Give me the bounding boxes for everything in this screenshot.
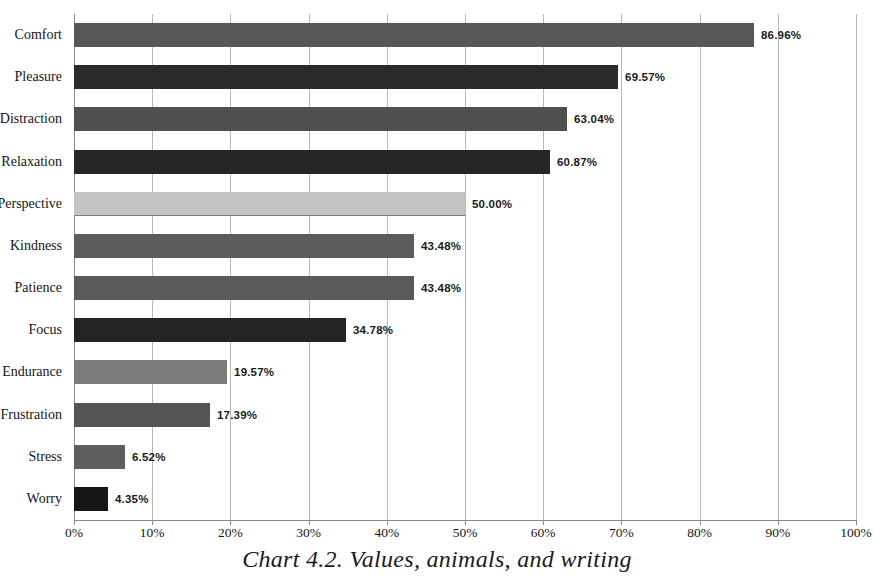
y-axis-category-labels: ComfortPleasureDistractionRelaxationPers… <box>0 14 68 520</box>
bars-layer: 86.96%69.57%63.04%60.87%50.00%43.48%43.4… <box>74 14 856 520</box>
bar-value-label: 4.35% <box>115 493 149 505</box>
bar-value-label: 86.96% <box>761 29 801 41</box>
category-label-distraction: Distraction <box>0 111 62 127</box>
bar-row[interactable]: 60.87% <box>74 141 856 183</box>
bar[interactable] <box>74 276 414 300</box>
bar-row[interactable]: 63.04% <box>74 98 856 140</box>
bar-value-label: 43.48% <box>421 240 461 252</box>
bar[interactable] <box>74 318 346 342</box>
bar-row[interactable]: 17.39% <box>74 394 856 436</box>
category-label-patience: Patience <box>15 280 62 296</box>
x-tick-label-100%: 100% <box>840 525 872 541</box>
bar[interactable] <box>74 487 108 511</box>
category-label-worry: Worry <box>27 491 62 507</box>
bar[interactable] <box>74 23 754 47</box>
chart-page: ComfortPleasureDistractionRelaxationPers… <box>0 0 874 576</box>
bar-value-label: 6.52% <box>132 451 166 463</box>
bar-row[interactable]: 43.48% <box>74 225 856 267</box>
x-tick-label-60%: 60% <box>531 525 556 541</box>
bar[interactable] <box>74 65 618 89</box>
category-label-perspective: Perspective <box>0 196 62 212</box>
bar-value-label: 17.39% <box>217 409 257 421</box>
x-tick-label-20%: 20% <box>218 525 243 541</box>
bar-value-label: 43.48% <box>421 282 461 294</box>
category-label-pleasure: Pleasure <box>15 69 62 85</box>
category-label-kindness: Kindness <box>10 238 62 254</box>
x-tick-label-50%: 50% <box>453 525 478 541</box>
horizontal-bar-chart: ComfortPleasureDistractionRelaxationPers… <box>0 0 874 576</box>
bar[interactable] <box>74 234 414 258</box>
x-tick-label-0%: 0% <box>65 525 83 541</box>
x-axis-tick-labels: 0%10%20%30%40%50%60%70%80%90%100% <box>0 525 874 547</box>
gridline-100% <box>856 14 857 520</box>
bar-value-label: 69.57% <box>625 71 665 83</box>
category-label-comfort: Comfort <box>15 27 62 43</box>
bar-row[interactable]: 4.35% <box>74 478 856 520</box>
x-tick-label-90%: 90% <box>765 525 790 541</box>
x-tick-label-70%: 70% <box>609 525 634 541</box>
bar-value-label: 60.87% <box>557 156 597 168</box>
bar-row[interactable]: 43.48% <box>74 267 856 309</box>
bar[interactable] <box>74 360 227 384</box>
category-label-relaxation: Relaxation <box>1 154 62 170</box>
bar-row[interactable]: 34.78% <box>74 309 856 351</box>
category-label-frustration: Frustration <box>1 407 62 423</box>
bar[interactable] <box>74 107 567 131</box>
bar[interactable] <box>74 150 550 174</box>
bar-value-label: 19.57% <box>234 366 274 378</box>
x-tick-label-30%: 30% <box>296 525 321 541</box>
x-tick-label-40%: 40% <box>374 525 399 541</box>
plot-area: 86.96%69.57%63.04%60.87%50.00%43.48%43.4… <box>74 14 856 520</box>
bar-row[interactable]: 6.52% <box>74 436 856 478</box>
bar-row[interactable]: 86.96% <box>74 14 856 56</box>
bar[interactable] <box>74 445 125 469</box>
chart-caption: Chart 4.2. Values, animals, and writing <box>0 546 874 573</box>
bar-value-label: 63.04% <box>574 113 614 125</box>
bar-value-label: 34.78% <box>353 324 393 336</box>
bar-value-label: 50.00% <box>472 198 512 210</box>
x-tick-label-80%: 80% <box>687 525 712 541</box>
x-tick-label-10%: 10% <box>140 525 165 541</box>
bar-row[interactable]: 19.57% <box>74 351 856 393</box>
category-label-stress: Stress <box>29 449 62 465</box>
bar-row[interactable]: 50.00% <box>74 183 856 225</box>
bar-row[interactable]: 69.57% <box>74 56 856 98</box>
bar[interactable] <box>74 192 465 216</box>
category-label-endurance: Endurance <box>2 364 62 380</box>
bar[interactable] <box>74 403 210 427</box>
category-label-focus: Focus <box>29 322 62 338</box>
